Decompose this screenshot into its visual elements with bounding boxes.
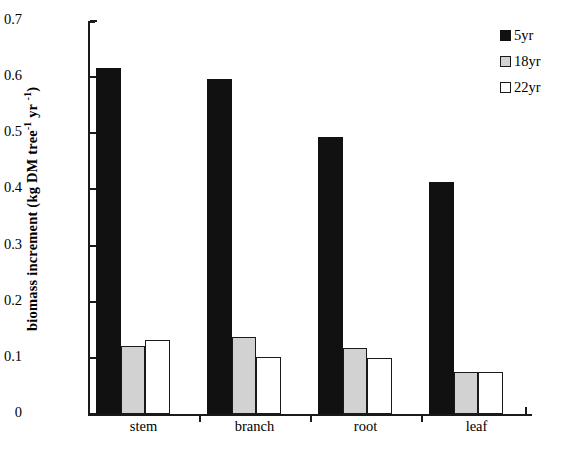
bar-branch-5yr (207, 79, 232, 414)
legend-label-5yr: 5yr (514, 28, 533, 43)
y-axis-title-mid: yr (24, 100, 40, 121)
y-axis-tick (90, 20, 97, 22)
legend-swatch-18yr (500, 56, 511, 67)
legend-item-22yr[interactable]: 22yr (500, 74, 541, 100)
y-axis-tick-label: 0.5 (0, 123, 22, 140)
legend-label-22yr: 22yr (514, 80, 541, 95)
y-axis-tick-label: 0.7 (0, 11, 22, 28)
x-axis-tick-label-stem: stem (84, 418, 204, 435)
legend-item-18yr[interactable]: 18yr (500, 48, 541, 74)
x-axis-tick-label-branch: branch (195, 418, 315, 435)
y-axis-title-main: biomass increment (kg DM tree (24, 130, 40, 331)
y-axis-tick-label: 0 (0, 404, 22, 421)
x-axis-tick-label-root: root (306, 418, 426, 435)
y-axis-line (88, 21, 90, 414)
y-axis-tick-label: 0.3 (0, 236, 22, 253)
legend-item-5yr[interactable]: 5yr (500, 22, 541, 48)
y-axis-title-sup2: -1 (23, 92, 33, 100)
y-axis-title: biomass increment (kg DM tree-1 yr -1) (23, 29, 41, 389)
bar-stem-5yr (96, 68, 121, 414)
bar-root-5yr (318, 137, 343, 414)
bar-branch-22yr (256, 357, 281, 414)
legend-swatch-22yr (500, 82, 511, 93)
bar-root-22yr (367, 358, 392, 414)
legend-swatch-5yr (500, 30, 511, 41)
legend-label-18yr: 18yr (514, 54, 541, 69)
bar-branch-18yr (232, 337, 257, 414)
x-axis-end-cap (525, 407, 527, 416)
bar-chart: biomass increment (kg DM tree-1 yr -1) 0… (0, 0, 573, 468)
plot-area (88, 21, 532, 414)
x-axis-tick-label-leaf: leaf (417, 418, 537, 435)
y-axis-title-tail: ) (24, 87, 40, 92)
y-axis-tick-label: 0.6 (0, 67, 22, 84)
bar-root-18yr (343, 348, 368, 414)
y-axis-tick-label: 0.2 (0, 292, 22, 309)
y-axis-tick-label: 0.1 (0, 348, 22, 365)
y-axis-tick-label: 0.4 (0, 179, 22, 196)
bar-stem-18yr (121, 346, 146, 414)
bar-stem-22yr (145, 340, 170, 414)
bar-leaf-18yr (454, 372, 479, 414)
bar-leaf-5yr (429, 182, 454, 414)
y-axis-title-sup1: -1 (23, 122, 33, 130)
bar-leaf-22yr (478, 372, 503, 414)
legend: 5yr18yr22yr (500, 22, 541, 100)
